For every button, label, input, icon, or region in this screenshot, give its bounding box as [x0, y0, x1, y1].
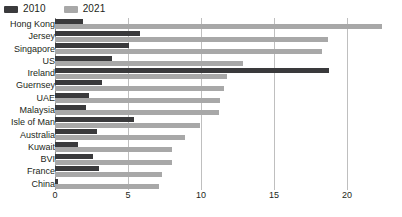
bar-2010[interactable] — [55, 19, 83, 24]
bar-2021[interactable] — [55, 110, 219, 115]
bar-row[interactable]: UAE — [0, 92, 402, 104]
bar-2010[interactable] — [55, 142, 78, 147]
bar-2021[interactable] — [55, 184, 159, 189]
category-label: Ireland — [0, 67, 55, 79]
bar-2021[interactable] — [55, 37, 328, 42]
bar-row[interactable]: Australia — [0, 129, 402, 141]
bar-row[interactable]: Ireland — [0, 67, 402, 79]
category-label: BVI — [0, 153, 55, 165]
legend-item-2021[interactable]: 2021 — [64, 4, 106, 14]
bar-2021[interactable] — [55, 24, 382, 29]
category-label: China — [0, 178, 55, 190]
bar-row[interactable]: Isle of Man — [0, 116, 402, 128]
chart-legend: 2010 2021 — [4, 2, 105, 16]
bar-2021[interactable] — [55, 49, 322, 54]
bar-row[interactable]: China — [0, 178, 402, 190]
bar-2010[interactable] — [55, 56, 112, 61]
bar-row[interactable]: France — [0, 165, 402, 177]
bar-row[interactable]: Kuwait — [0, 141, 402, 153]
x-axis: 05101520 — [0, 190, 402, 217]
legend-label-2021: 2021 — [83, 4, 106, 14]
bar-chart: 2010 2021 Hong KongJerseySingaporeUSIrel… — [0, 0, 402, 217]
bar-2021[interactable] — [55, 123, 200, 128]
category-label: Guernsey — [0, 79, 55, 91]
bar-2010[interactable] — [55, 179, 58, 184]
x-tick-15: 15 — [269, 190, 279, 201]
category-label: Kuwait — [0, 141, 55, 153]
bar-row[interactable]: Guernsey — [0, 79, 402, 91]
bar-row[interactable]: Hong Kong — [0, 18, 402, 30]
legend-swatch-2010 — [4, 6, 18, 13]
bar-2021[interactable] — [55, 160, 172, 165]
category-label: France — [0, 165, 55, 177]
category-label: Isle of Man — [0, 116, 55, 128]
legend-item-2010[interactable]: 2010 — [4, 4, 46, 14]
bar-2021[interactable] — [55, 74, 227, 79]
bar-2010[interactable] — [55, 80, 102, 85]
bar-2021[interactable] — [55, 147, 172, 152]
category-label: Malaysia — [0, 104, 55, 116]
bar-2021[interactable] — [55, 172, 162, 177]
bar-2010[interactable] — [55, 31, 140, 36]
category-label: US — [0, 55, 55, 67]
bar-2010[interactable] — [55, 129, 97, 134]
x-tick-5: 5 — [125, 190, 130, 201]
category-label: Hong Kong — [0, 18, 55, 30]
bar-row[interactable]: Malaysia — [0, 104, 402, 116]
bar-2021[interactable] — [55, 98, 220, 103]
x-tick-0: 0 — [52, 190, 57, 201]
bar-rows: Hong KongJerseySingaporeUSIrelandGuernse… — [0, 18, 402, 190]
bar-row[interactable]: Jersey — [0, 30, 402, 42]
category-label: Singapore — [0, 43, 55, 55]
x-tick-10: 10 — [196, 190, 206, 201]
bar-2010[interactable] — [55, 68, 329, 73]
bar-2010[interactable] — [55, 154, 93, 159]
x-tick-20: 20 — [342, 190, 352, 201]
bar-row[interactable]: Singapore — [0, 43, 402, 55]
legend-swatch-2021 — [64, 6, 78, 13]
bar-row[interactable]: US — [0, 55, 402, 67]
category-label: UAE — [0, 92, 55, 104]
category-label: Jersey — [0, 30, 55, 42]
category-label: Australia — [0, 129, 55, 141]
bar-2021[interactable] — [55, 61, 243, 66]
bar-2010[interactable] — [55, 43, 129, 48]
bar-2010[interactable] — [55, 105, 86, 110]
bar-2021[interactable] — [55, 86, 224, 91]
bar-row[interactable]: BVI — [0, 153, 402, 165]
legend-label-2010: 2010 — [23, 4, 46, 14]
bar-2010[interactable] — [55, 93, 89, 98]
bar-2010[interactable] — [55, 117, 134, 122]
bar-2010[interactable] — [55, 166, 99, 171]
plot-area: Hong KongJerseySingaporeUSIrelandGuernse… — [0, 18, 402, 190]
bar-2021[interactable] — [55, 135, 185, 140]
